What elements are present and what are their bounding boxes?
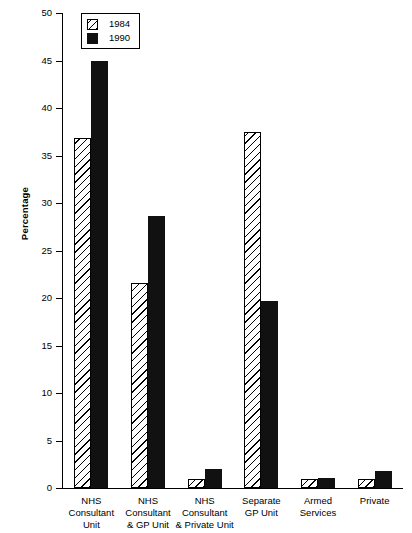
bar-1984 [301,479,318,489]
x-axis-category-label: NHS Consultant & GP Unit [117,495,180,532]
y-axis-tick [56,441,63,442]
y-axis-tick [56,251,63,252]
y-axis-tick [56,393,63,394]
legend-label-1984: 1984 [109,19,130,29]
y-axis-tick [56,156,63,157]
y-axis-tick [56,346,63,347]
bar-1990 [261,301,278,488]
bar-1990 [375,471,392,488]
solid-black-swatch-icon [87,33,98,44]
y-axis-tick [56,203,63,204]
y-axis-tick-label: 45 [18,56,52,66]
y-axis-tick-label: 25 [18,246,52,256]
y-axis-tick-label: 35 [18,151,52,161]
legend-item-1990: 1990 [87,31,130,45]
x-axis-category-label: Armed Services [287,495,350,519]
y-axis-tick-label: 0 [18,483,52,493]
x-axis-line [62,488,403,489]
y-axis-tick-label: 10 [18,388,52,398]
y-axis-tick-label: 20 [18,293,52,303]
bar-1990 [91,61,108,489]
bar-1984 [74,138,91,488]
bar-1990 [205,469,222,488]
y-axis-tick [56,13,63,14]
y-axis-tick-label: 15 [18,341,52,351]
hatched-swatch-icon [87,19,98,30]
bar-1984 [358,479,375,489]
x-axis-category-label: NHS Consultant Unit [60,495,123,532]
bar-1990 [318,478,335,488]
y-axis-title: Percentage [19,154,30,274]
x-axis-category-label: Separate GP Unit [230,495,293,519]
x-axis-category-label: Private [343,495,406,507]
plot-area [63,13,403,488]
x-axis-category-label: NHS Consultant & Private Unit [173,495,236,532]
bar-1984 [131,283,148,488]
y-axis-tick [56,298,63,299]
bar-1984 [244,132,261,488]
chart-legend: 1984 1990 [81,13,140,49]
y-axis-tick-label: 30 [18,198,52,208]
y-axis-tick [56,108,63,109]
y-axis-tick-label: 5 [18,436,52,446]
y-axis-tick [56,61,63,62]
bar-1990 [148,216,165,488]
bar-1984 [188,479,205,489]
y-axis-tick-label: 50 [18,8,52,18]
bar-chart: Percentage 05101520253035404550 NHS Cons… [0,0,412,533]
legend-label-1990: 1990 [109,33,130,43]
legend-item-1984: 1984 [87,17,130,31]
y-axis-tick-label: 40 [18,103,52,113]
